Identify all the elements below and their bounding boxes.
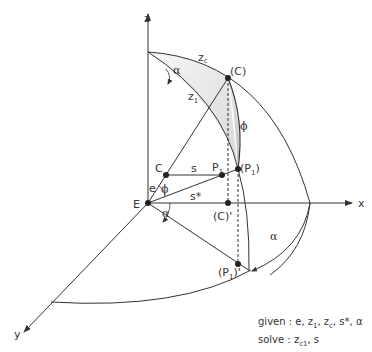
x-axis-label: x	[358, 197, 365, 210]
label-zc: zc	[198, 51, 208, 65]
label-c-proj: (C)	[230, 65, 246, 78]
label-alpha-bottom: α	[270, 230, 278, 243]
label-c: C	[155, 162, 163, 175]
label-e-length: e	[149, 182, 156, 195]
label-e: E	[133, 198, 140, 211]
spherical-geometry-diagram: z x y E C (C) (C)' P1 (P1) (P1)' zc z1 α…	[0, 0, 372, 352]
label-p1: P1	[212, 161, 223, 176]
label-s-star: s*	[190, 190, 202, 203]
point-c-shadow	[225, 200, 231, 206]
lower-meridian-arc	[238, 169, 249, 270]
shaded-region-top	[148, 52, 238, 169]
label-alpha-e: α	[162, 207, 170, 220]
label-s: s	[191, 162, 197, 175]
label-alpha-top: α	[173, 64, 181, 77]
label-phi-side: ϕ	[240, 120, 248, 133]
given-line: given : e, z1, zc, s*, α	[258, 315, 363, 333]
solve-line: solve : zc1, s	[258, 333, 363, 351]
outer-meridian-arc	[148, 52, 310, 275]
label-c-shadow: (C)'	[213, 210, 232, 223]
y-axis-label: y	[14, 328, 21, 341]
alpha-arc-top	[166, 69, 170, 84]
y-axis	[24, 203, 148, 332]
label-p1-shadow: (P1)'	[218, 266, 241, 281]
point-e	[145, 200, 151, 206]
point-c	[163, 172, 169, 178]
label-phi-e: ϕ	[161, 183, 169, 196]
z-axis-label: z	[144, 12, 150, 25]
problem-statement: given : e, z1, zc, s*, α solve : zc1, s	[258, 315, 363, 351]
label-p1-proj: (P1)	[240, 162, 260, 177]
